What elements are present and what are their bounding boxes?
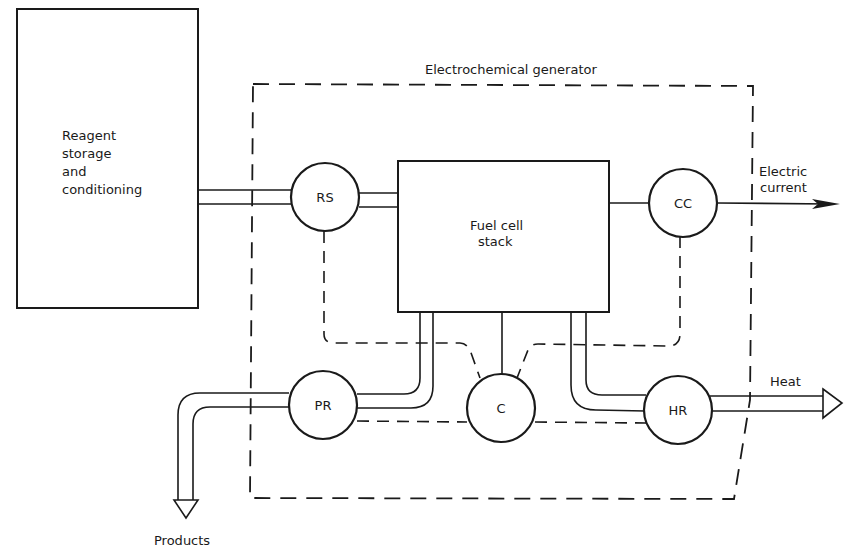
reagent-label-1: Reagent	[62, 128, 116, 143]
c-node: C	[467, 374, 535, 442]
cc-node: CC	[649, 169, 717, 237]
generator-title: Electrochemical generator	[425, 62, 597, 77]
hr-to-heat-pipe	[710, 389, 842, 418]
reagent-storage-block: Reagent storage and conditioning	[17, 9, 198, 308]
pr-to-products-pipe	[174, 393, 289, 518]
heat-label: Heat	[770, 374, 801, 389]
fuel-cell-system-diagram: Electrochemical generator Reagent storag…	[0, 0, 854, 550]
stack-to-hr-pipe	[571, 312, 646, 411]
stack-label-2: stack	[478, 234, 513, 249]
rs-node: RS	[291, 163, 359, 231]
hr-node: HR	[644, 376, 712, 444]
pr-label: PR	[315, 398, 332, 413]
reagent-to-rs-pipe	[198, 190, 291, 204]
hr-label: HR	[669, 403, 688, 418]
c-label: C	[496, 401, 505, 416]
electric-label-1: Electric	[759, 164, 807, 179]
reagent-label-4: conditioning	[62, 182, 142, 197]
electric-label-2: current	[760, 180, 807, 195]
rs-to-stack-pipe	[359, 193, 398, 207]
cc-label: CC	[674, 196, 692, 211]
rs-label: RS	[316, 190, 333, 205]
reagent-label-2: storage	[62, 146, 111, 161]
fuel-cell-stack-block: Fuel cell stack	[398, 161, 609, 312]
products-label: Products	[154, 533, 210, 548]
stack-label-1: Fuel cell	[470, 218, 523, 233]
pr-node: PR	[289, 371, 357, 439]
stack-to-pr-pipe	[357, 312, 433, 408]
reagent-label-3: and	[62, 164, 86, 179]
electric-current-arrow	[717, 199, 840, 209]
